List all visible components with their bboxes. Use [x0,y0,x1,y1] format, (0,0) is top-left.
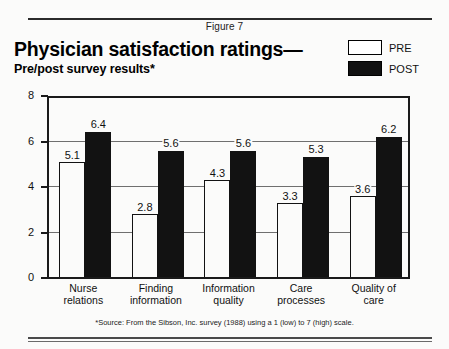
x-axis-category-label: Careprocesses [265,282,338,306]
category-label-line: care [337,294,410,306]
bar-value-label: 3.6 [354,183,371,195]
bar-group: 3.66.2 [339,98,412,278]
bar-pre: 2.8 [132,214,158,278]
bar-post: 6.4 [85,132,111,278]
bar-value-label: 5.6 [235,137,252,149]
bar-value-label: 6.2 [380,123,397,135]
bar-pre: 5.1 [59,162,85,278]
category-label-line: Quality of [337,282,410,294]
bar-pre: 3.3 [277,203,303,278]
bar-value-label: 5.3 [307,143,324,155]
legend-swatch-pre-icon [348,40,382,55]
x-axis-baseline [47,277,410,279]
bar-value-label: 5.1 [64,149,81,161]
y-axis-tick-label: 0 [12,271,34,283]
bottom-divider-rule-thick [28,337,432,339]
category-label-line: Nurse [47,282,120,294]
bar-pre: 4.3 [204,180,230,278]
page-title: Physician satisfaction ratings— [14,38,303,61]
legend-label-post: POST [389,63,419,75]
x-axis-category-label: Nurserelations [47,282,120,306]
x-axis-category-label: Informationquality [192,282,265,306]
y-axis-tick-label: 6 [12,135,34,147]
bar-value-label: 4.3 [209,167,226,179]
y-axis-tick-label: 2 [12,226,34,238]
legend-label-pre: PRE [389,42,412,54]
bar-value-label: 3.3 [281,190,298,202]
category-label-line: processes [265,294,338,306]
bar-pre: 3.6 [350,196,376,278]
bar-value-label: 2.8 [136,201,153,213]
bar-post: 6.2 [376,137,402,278]
category-label-line: relations [47,294,120,306]
legend-swatch-post-icon [348,61,382,76]
category-label-line: quality [192,294,265,306]
category-label-line: information [120,294,193,306]
category-label-line: Finding [120,282,193,294]
bar-group: 2.85.6 [122,98,195,278]
y-axis-tick-label: 4 [12,180,34,192]
bottom-divider-rule-thin [28,341,432,342]
plot-area: 5.16.42.85.64.35.63.35.33.66.2 [47,96,410,278]
figure-number-label: Figure 7 [0,21,449,32]
category-label-line: Information [192,282,265,294]
legend-item-post: POST [348,59,444,78]
figure-container: Figure 7 Physician satisfaction ratings—… [0,0,449,349]
y-axis-tick-label: 8 [12,89,34,101]
x-axis-category-label: Findinginformation [120,282,193,306]
bar-group: 4.35.6 [194,98,267,278]
chart-legend: PRE POST [348,38,444,80]
page-subtitle: Pre/post survey results* [14,62,155,76]
bar-post: 5.6 [230,151,256,278]
bar-post: 5.6 [158,151,184,278]
top-divider-rule [28,18,432,20]
category-label-line: Care [265,282,338,294]
bar-value-label: 5.6 [162,137,179,149]
bar-group: 5.16.4 [49,98,122,278]
bar-value-label: 6.4 [90,118,107,130]
bar-post: 5.3 [303,157,329,278]
legend-item-pre: PRE [348,38,444,57]
source-footnote: *Source: From the Sibson, Inc. survey (1… [0,318,449,327]
bar-group: 3.35.3 [267,98,340,278]
x-axis-category-label: Quality ofcare [337,282,410,306]
